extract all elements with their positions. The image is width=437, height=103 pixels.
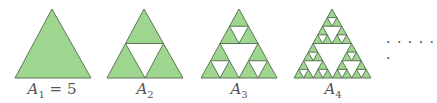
triangle-cell (327, 9, 337, 18)
triangle-cell (342, 69, 352, 78)
triangle-cell (15, 9, 91, 78)
triangle-cell (342, 52, 352, 61)
triangle-cell (352, 69, 362, 78)
triangle-cell (332, 18, 342, 27)
triangle-cell (239, 26, 258, 43)
triangle-cell (318, 26, 328, 35)
triangle-cell (211, 44, 230, 61)
label-var: A (230, 80, 241, 98)
triangle-cell (313, 69, 323, 78)
triangle-cell (220, 26, 239, 43)
triangle-cell (308, 44, 318, 53)
triangle-cell (323, 18, 333, 27)
label-a2: A2 (136, 80, 153, 100)
label-sub: 3 (241, 89, 247, 100)
triangle-cell (239, 61, 258, 78)
label-a3: A3 (230, 80, 247, 100)
triangle-cell (299, 61, 309, 70)
triangle-cell (126, 9, 164, 44)
triangle-cell (337, 26, 347, 35)
triangle-cell (352, 52, 362, 61)
triangle-cell (347, 44, 357, 53)
triangle-cell (357, 61, 367, 70)
triangle-cell (107, 44, 145, 79)
triangle-cell (304, 52, 314, 61)
triangle-cell (333, 69, 343, 78)
label-var: A (136, 80, 147, 98)
triangle-cell (258, 61, 277, 78)
triangle-cell (220, 61, 239, 78)
sierpinski-figure: A1 = 5 A2 A3 A4 · · · · · · (0, 0, 437, 103)
triangle-cell (294, 69, 304, 78)
triangle-cell (313, 52, 323, 61)
triangle-cell (332, 35, 342, 44)
triangle-cell (304, 69, 314, 78)
triangle-cell (230, 9, 249, 26)
triangle-cell (337, 61, 347, 70)
label-value: = 5 (45, 80, 77, 98)
label-a4: A4 (324, 80, 341, 100)
triangle-cell (249, 44, 268, 61)
label-sub: 2 (147, 89, 153, 100)
triangle-cell (201, 61, 220, 78)
label-var: A (324, 80, 335, 98)
continuation-ellipsis: · · · · · · (386, 34, 437, 66)
label-sub: 4 (335, 89, 341, 100)
triangle-cell (145, 44, 183, 79)
triangle-cell (361, 69, 371, 78)
triangle-cell (318, 61, 328, 70)
triangle-cell (323, 35, 333, 44)
label-a1: A1 = 5 (28, 80, 77, 100)
triangle-cell (342, 35, 352, 44)
triangle-cell (323, 69, 333, 78)
label-var: A (28, 80, 39, 98)
triangle-cell (313, 35, 323, 44)
